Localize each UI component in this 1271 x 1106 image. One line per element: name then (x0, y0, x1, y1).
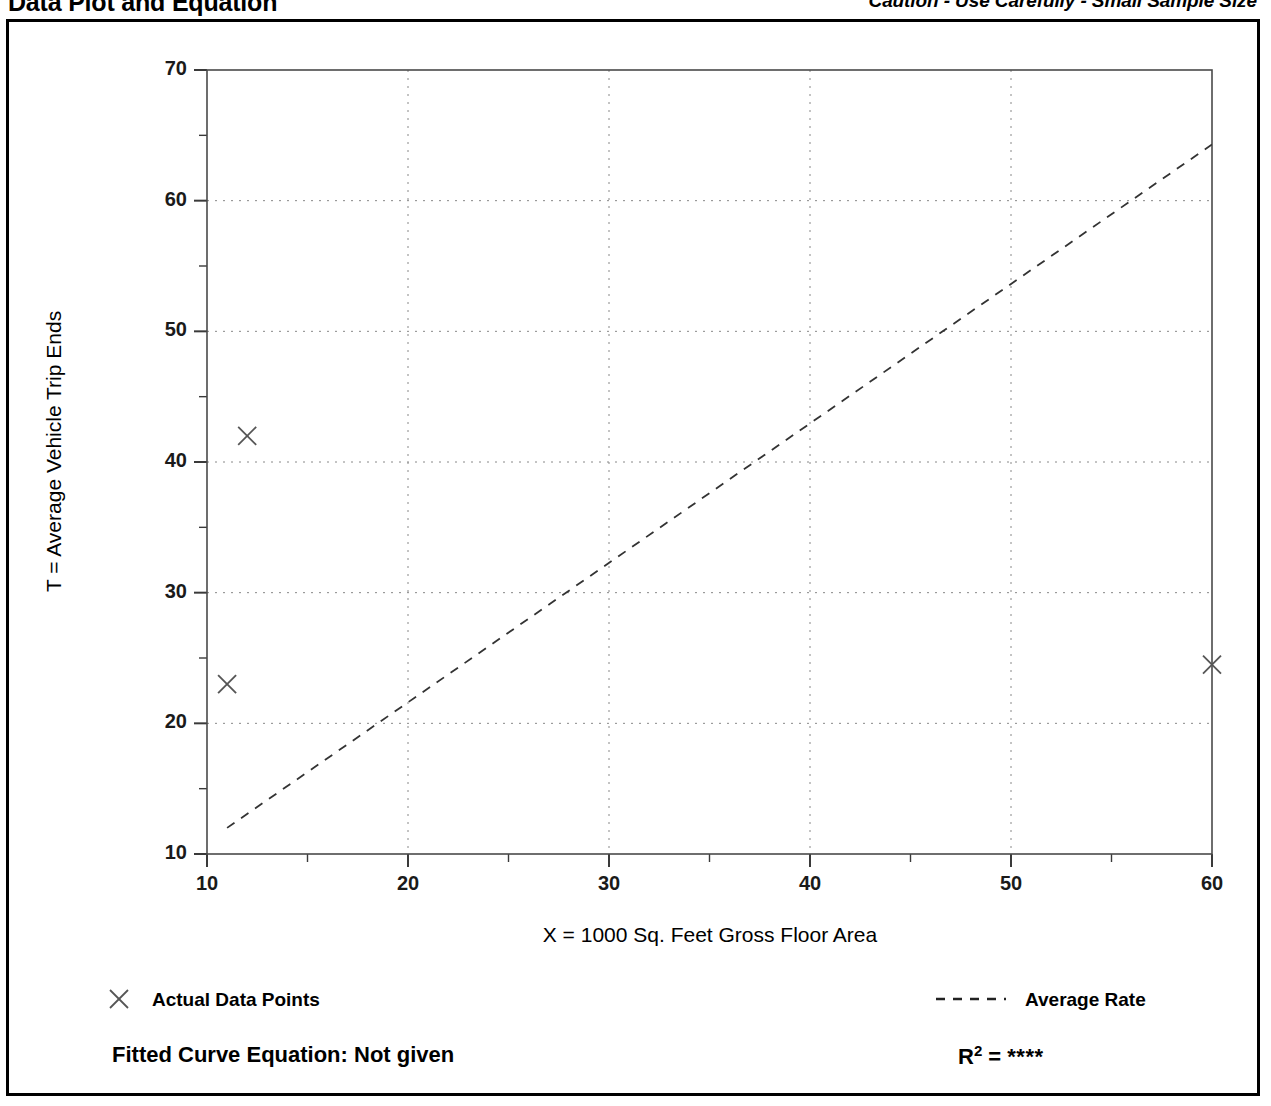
r-squared-block: R2 = **** (958, 1042, 1044, 1070)
x-tick-label: 30 (579, 872, 639, 895)
average-rate-trendline (227, 144, 1212, 827)
x-tick-label: 20 (378, 872, 438, 895)
y-tick-label: 60 (141, 188, 187, 211)
x-tick-label: 50 (981, 872, 1041, 895)
legend-average-rate-label: Average Rate (1025, 989, 1146, 1011)
fitted-curve-equation: Fitted Curve Equation: Not given (112, 1042, 454, 1068)
axis-ticks (194, 70, 1212, 867)
x-tick-label: 10 (177, 872, 237, 895)
r-squared-label: R (958, 1044, 974, 1069)
r-squared-value: **** (1007, 1044, 1043, 1069)
y-tick-label: 70 (141, 57, 187, 80)
y-axis-title: T = Average Vehicle Trip Ends (42, 332, 66, 592)
y-tick-label: 20 (141, 710, 187, 733)
r-squared-equals: = (982, 1044, 1007, 1069)
y-tick-label: 40 (141, 449, 187, 472)
data-point-markers (218, 427, 1221, 693)
x-tick-label: 40 (780, 872, 840, 895)
y-tick-label: 30 (141, 580, 187, 603)
y-tick-label: 10 (141, 841, 187, 864)
x-tick-label: 60 (1182, 872, 1242, 895)
x-axis-title: X = 1000 Sq. Feet Gross Floor Area (207, 923, 1213, 947)
legend-actual-data-points-label: Actual Data Points (152, 989, 320, 1011)
y-tick-label: 50 (141, 318, 187, 341)
r-squared-exponent: 2 (974, 1042, 982, 1059)
